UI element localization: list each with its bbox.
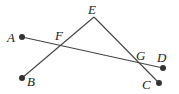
label-F: F <box>54 28 64 43</box>
point-D-dot <box>160 65 166 71</box>
point-A-dot <box>19 34 25 40</box>
label-A: A <box>6 30 15 45</box>
label-C: C <box>142 77 151 92</box>
point-C-dot <box>156 80 162 86</box>
label-G: G <box>136 48 146 63</box>
point-B-dot <box>19 75 25 81</box>
label-E: E <box>87 2 96 17</box>
geometry-diagram: A B C D E F G <box>0 0 179 94</box>
label-B: B <box>27 74 35 89</box>
segment-EC <box>94 17 159 83</box>
segment-BE <box>22 17 94 78</box>
label-D: D <box>156 50 167 65</box>
